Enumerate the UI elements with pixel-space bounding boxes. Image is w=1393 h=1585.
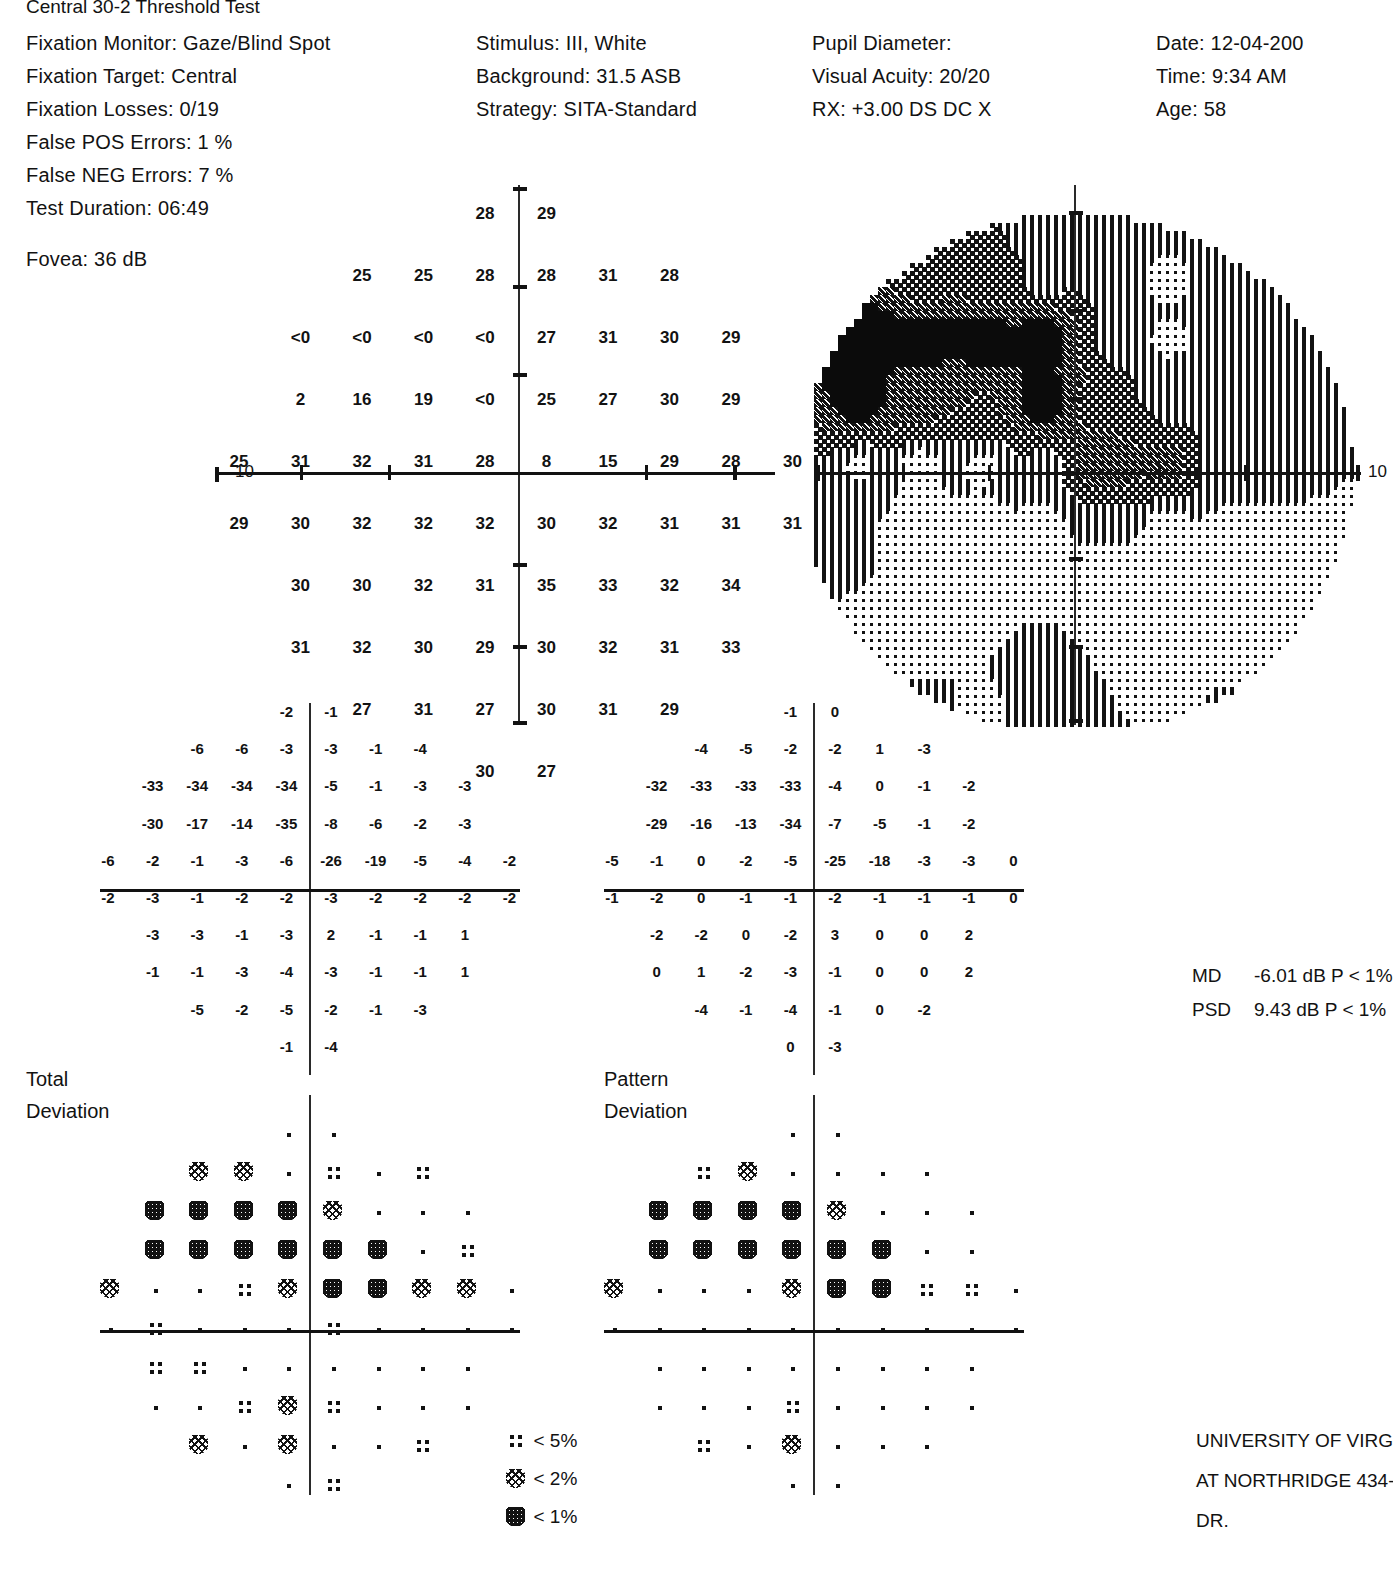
- grayscale-cell: [1150, 543, 1153, 546]
- grayscale-cell: [942, 511, 945, 514]
- grayscale-cell: [1230, 327, 1234, 331]
- grayscale-cell: [1222, 455, 1226, 459]
- grayscale-cell: [1118, 311, 1122, 315]
- grayscale-cell: [1094, 223, 1098, 227]
- grayscale-cell: [1014, 567, 1017, 570]
- grayscale-cell: [1118, 351, 1122, 355]
- grayscale-cell: [1046, 359, 1054, 367]
- grayscale-cell: [1126, 591, 1129, 594]
- grayscale-cell: [1014, 655, 1018, 659]
- grayscale-cell: [1094, 407, 1099, 412]
- grayscale-cell: [1054, 367, 1062, 375]
- grayscale-cell: [1246, 559, 1249, 562]
- grayscale-cell: [990, 639, 993, 642]
- grayscale-cell: [886, 319, 894, 327]
- grayscale-cell: [934, 279, 939, 284]
- grayscale-cell: [974, 391, 979, 396]
- grayscale-cell: [1174, 663, 1177, 666]
- grayscale-cell: [918, 527, 921, 530]
- grayscale-cell: [1054, 407, 1062, 415]
- grayscale-cell: [982, 255, 987, 260]
- grayscale-cell: [1110, 695, 1114, 699]
- grayscale-cell: [1030, 295, 1035, 300]
- grayscale-cell: [1166, 591, 1169, 594]
- grayscale-cell: [1238, 415, 1242, 419]
- grayscale-cell: [1198, 359, 1202, 363]
- value-cell: -30: [133, 815, 173, 832]
- grayscale-cell: [886, 351, 894, 359]
- value-cell: -4: [681, 1001, 721, 1018]
- grayscale-cell: [1046, 639, 1050, 643]
- value-cell: -5: [400, 852, 440, 869]
- grayscale-cell: [958, 415, 963, 420]
- grayscale-cell: [1126, 423, 1131, 428]
- grayscale-cell: [998, 631, 1001, 634]
- grayscale-cell: [974, 407, 979, 412]
- value-cell: -2: [726, 963, 766, 980]
- grayscale-cell: [966, 415, 971, 420]
- grayscale-cell: [950, 495, 953, 498]
- grayscale-cell: [1110, 415, 1115, 420]
- grayscale-cell: [1214, 439, 1218, 443]
- grayscale-cell: [1046, 663, 1050, 667]
- grayscale-cell: [1126, 335, 1130, 339]
- grayscale-cell: [1046, 415, 1054, 423]
- grayscale-cell: [926, 359, 934, 367]
- grayscale-cell: [846, 503, 850, 507]
- value-cell: -1: [222, 926, 262, 943]
- grayscale-cell: [1174, 295, 1177, 298]
- probability-symbol-normal: [872, 1435, 894, 1457]
- grayscale-cell: [1286, 359, 1290, 363]
- grayscale-cell: [1062, 295, 1067, 300]
- grayscale-cell: [1342, 415, 1346, 419]
- grayscale-cell: [1214, 319, 1218, 323]
- grayscale-cell: [1046, 487, 1050, 491]
- grayscale-cell: [1102, 335, 1106, 339]
- grayscale-cell: [870, 607, 873, 610]
- grayscale-cell: [894, 391, 902, 399]
- grayscale-cell: [1198, 319, 1202, 323]
- grayscale-cell: [1198, 655, 1201, 658]
- grayscale-cell: [934, 447, 938, 451]
- grayscale-cell: [1310, 391, 1314, 395]
- grayscale-cell: [966, 375, 974, 383]
- grayscale-cell: [966, 399, 971, 404]
- value-cell: 1: [860, 740, 900, 757]
- grayscale-cell: [1198, 703, 1201, 706]
- grayscale-cell: [870, 535, 874, 539]
- grayscale-cell: [822, 559, 826, 563]
- grayscale-cell: [1126, 479, 1131, 484]
- grayscale-cell: [1086, 463, 1094, 471]
- grayscale-cell: [1222, 559, 1225, 562]
- grayscale-cell: [1078, 527, 1082, 531]
- grayscale-cell: [1134, 647, 1137, 650]
- grayscale-cell: [982, 439, 986, 443]
- grayscale-cell: [950, 479, 954, 483]
- grayscale-cell: [1174, 559, 1177, 562]
- probability-symbol-normal: [916, 1357, 938, 1379]
- value-cell: -1: [726, 889, 766, 906]
- grayscale-cell: [1150, 295, 1154, 299]
- grayscale-cell: [1102, 463, 1110, 471]
- grayscale-cell: [1286, 351, 1290, 355]
- grayscale-cell: [1254, 487, 1258, 491]
- grayscale-cell: [1126, 247, 1130, 251]
- grayscale-cell: [974, 439, 978, 443]
- grayscale-cell: [910, 351, 918, 359]
- grayscale-cell: [1238, 671, 1241, 674]
- grayscale-cell: [934, 487, 937, 490]
- grayscale-cell: [1150, 519, 1153, 522]
- grayscale-cell: [1270, 335, 1274, 339]
- grayscale-cell: [974, 647, 977, 650]
- grayscale-cell: [1166, 335, 1169, 338]
- grayscale-cell: [1270, 319, 1274, 323]
- probability-symbol-p2: [278, 1396, 297, 1415]
- grayscale-cell: [910, 311, 918, 319]
- grayscale-cell: [1046, 431, 1054, 439]
- grayscale-cell: [918, 599, 921, 602]
- grayscale-cell: [1022, 279, 1026, 283]
- grayscale-cell: [1038, 615, 1041, 618]
- grayscale-cell: [1262, 639, 1265, 642]
- grayscale-cell: [870, 391, 878, 399]
- grayscale-cell: [1030, 599, 1033, 602]
